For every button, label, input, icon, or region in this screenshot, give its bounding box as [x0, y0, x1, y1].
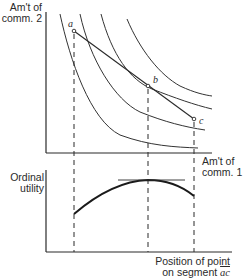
indifference-curve-4	[127, 19, 212, 96]
diagram-canvas	[0, 0, 243, 279]
upper-y-axis-label: Am't of comm. 2	[0, 2, 42, 24]
point-c-label: c	[199, 115, 203, 126]
upper-x-axis-label: Am't of comm. 1	[202, 156, 242, 178]
segment-ac-label: ac	[220, 267, 230, 278]
indifference-curve-2	[80, 14, 205, 130]
point-a	[72, 29, 76, 33]
point-b-label: b	[153, 74, 158, 85]
lower-y-axis-label: Ordinal utility	[0, 172, 44, 194]
lower-x-axis-label: Position of point on segment ac	[130, 256, 230, 278]
point-a-label: a	[68, 18, 73, 29]
indifference-curve-1	[60, 14, 198, 148]
utility-curve	[74, 180, 194, 214]
point-c	[192, 117, 196, 121]
point-b	[146, 84, 150, 88]
